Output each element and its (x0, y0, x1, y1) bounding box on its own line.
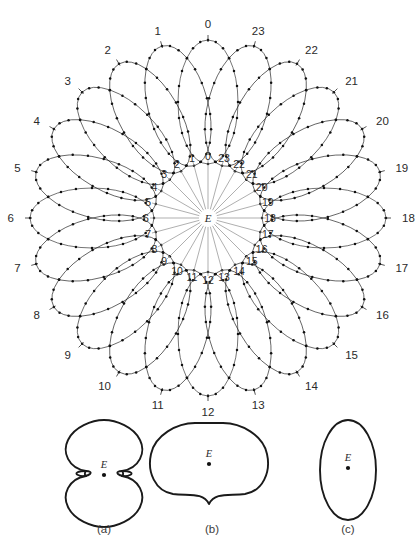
orbit-node-dot (152, 269, 155, 272)
orbit-node-dot (236, 317, 239, 320)
orbit-node-dot (337, 336, 340, 339)
orbit-node-dot (144, 81, 147, 84)
orbit-node-dot (93, 144, 96, 147)
orbit-node-dot (78, 258, 81, 261)
orbit-node-dot (269, 68, 272, 71)
epicycle-rosette-diagram: 0123456789101112131415161718192021222301… (0, 0, 420, 420)
shape-c-earth-label: E (344, 452, 352, 463)
outer-ring-label: 23 (252, 25, 265, 37)
orbit-node-dot (210, 306, 213, 309)
orbit-node-dot (367, 275, 370, 278)
orbit-node-dot (76, 326, 79, 329)
orbit-node-dot (307, 188, 310, 191)
orbit-node-dot (321, 313, 324, 316)
orbit-node-dot (51, 136, 54, 139)
orbit-node-dot (239, 101, 242, 104)
orbit-node-dot (157, 126, 160, 129)
orbit-node-dot (214, 161, 217, 164)
radial-spoke (213, 168, 238, 210)
orbit-node-dot (329, 131, 332, 134)
orbit-node-dot (109, 77, 112, 80)
orbit-node-dot (298, 117, 301, 120)
orbit-node-dot (199, 393, 202, 396)
orbit-node-dot (135, 292, 138, 295)
outer-ring-label: 8 (34, 309, 40, 321)
orbit-node-dot (296, 163, 299, 166)
orbit-node-dot (52, 289, 55, 292)
orbit-node-dot (298, 317, 301, 320)
orbit-node-dot (367, 238, 370, 241)
outer-ring-label: 10 (98, 380, 111, 392)
orbit-node-dot (272, 277, 275, 280)
orbit-node-dot (186, 377, 189, 380)
outer-ring-label: 6 (8, 212, 14, 224)
orbit-node-dot (112, 68, 115, 71)
orbit-node-dot (298, 267, 301, 270)
orbit-node-dot (153, 306, 156, 309)
orbit-node-dot (134, 234, 137, 237)
orbit-node-dot (227, 130, 230, 133)
orbit-node-dot (305, 89, 308, 92)
orbit-node-dot (220, 68, 223, 71)
orbit-node-dot (260, 49, 263, 52)
orbit-node-dot (205, 142, 208, 145)
orbit-node-dot (236, 85, 239, 88)
orbit-node-dot (271, 178, 274, 181)
orbit-node-dot (379, 179, 382, 182)
orbit-node-dot (141, 253, 144, 256)
orbit-node-dot (268, 366, 271, 369)
orbit-node-dot (326, 87, 329, 90)
orbit-node-dot (239, 332, 242, 335)
orbit-node-dot (143, 178, 146, 181)
orbit-node-dot (181, 70, 184, 73)
orbit-node-dot (228, 145, 231, 148)
radial-spoke (167, 224, 202, 259)
orbit-node-dot (209, 321, 212, 324)
inner-ring-label: 1 (189, 152, 195, 164)
orbit-node-dot (122, 191, 125, 194)
orbit-node-dot (173, 172, 176, 175)
orbit-node-dot (337, 98, 340, 101)
orbit-node-dot (172, 261, 175, 264)
orbit-node-dot (243, 283, 246, 286)
orbit-node-dot (336, 176, 339, 179)
orbit-node-dot (178, 85, 181, 88)
radial-spoke (217, 220, 264, 233)
radial-spoke (167, 177, 202, 212)
orbit-node-dot (246, 153, 249, 156)
orbit-node-dot (135, 371, 138, 374)
orbit-node-dot (375, 187, 378, 190)
orbit-node-dot (305, 77, 308, 80)
orbit-node-dot (131, 264, 134, 267)
orbit-node-dot (279, 292, 282, 295)
shape-c-earth-dot (346, 466, 350, 470)
orbit-node-dot (87, 155, 90, 158)
orbit-node-dot (175, 101, 178, 104)
orbit-node-dot (146, 114, 149, 117)
radial-spoke (152, 220, 199, 233)
orbit-node-dot (233, 364, 236, 367)
orbit-node-dot (265, 377, 268, 380)
orbit-node-dot (210, 128, 213, 131)
orbit-node-dot (246, 281, 249, 284)
radial-spoke (179, 168, 204, 210)
orbit-node-dot (91, 187, 94, 190)
orbit-node-dot (141, 181, 144, 184)
orbit-node-dot (166, 88, 169, 91)
orbit-node-dot (376, 232, 379, 235)
orbit-node-dot (236, 349, 239, 352)
orbit-node-dot (228, 289, 231, 292)
orbit-node-dot (263, 225, 266, 228)
orbit-node-dot (282, 289, 285, 292)
orbit-node-dot (363, 298, 366, 301)
orbit-node-dot (342, 280, 345, 283)
orbit-node-dot (186, 145, 189, 148)
orbit-node-dot (37, 202, 40, 205)
figure-root: 0123456789101112131415161718192021222301… (0, 0, 420, 556)
orbit-node-dot (157, 308, 160, 311)
orbit-node-dot (76, 107, 79, 110)
orbit-node-dot (214, 273, 217, 276)
orbit-node-dot (339, 188, 342, 191)
orbit-node-dot (145, 366, 148, 369)
orbit-node-dot (301, 68, 304, 71)
